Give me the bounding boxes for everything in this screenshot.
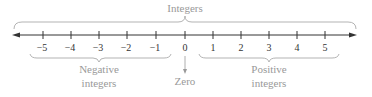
negative-integers-label-line1: Negative xyxy=(79,63,119,75)
number-line-diagram: Integers −5 −4 −3 −2 −1 0 1 2 3 4 5 Nega… xyxy=(0,0,372,97)
tick-label: 5 xyxy=(323,42,328,53)
positive-integers-label-line1: Positive xyxy=(251,63,287,75)
positive-integers-label-line2: integers xyxy=(252,77,287,89)
tick-label: −2 xyxy=(121,42,132,53)
negative-integers-label-line2: integers xyxy=(82,77,117,89)
right-arrow-icon xyxy=(349,33,357,38)
tick-label: 2 xyxy=(239,42,244,53)
tick-label: 1 xyxy=(211,42,216,53)
tick-label: 4 xyxy=(295,42,300,53)
left-arrow-icon xyxy=(12,33,20,38)
negative-brace xyxy=(30,54,171,62)
positive-brace xyxy=(199,54,339,62)
tick-label: 0 xyxy=(183,42,188,53)
tick-label: −5 xyxy=(37,42,48,53)
tick-label: −4 xyxy=(65,42,76,53)
tick-label: −3 xyxy=(93,42,104,53)
tick-labels: −5 −4 −3 −2 −1 0 1 2 3 4 5 xyxy=(37,42,328,53)
integers-title: Integers xyxy=(167,2,202,14)
tick-label: −1 xyxy=(150,42,161,53)
tick-label: 3 xyxy=(267,42,272,53)
zero-arrow-icon xyxy=(183,69,187,74)
integers-brace xyxy=(14,16,356,29)
zero-label: Zero xyxy=(175,75,196,87)
